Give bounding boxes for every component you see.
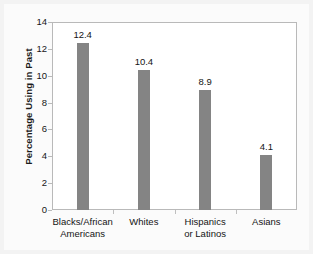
y-axis-tick-label: 12 xyxy=(25,44,47,54)
bar-value-label: 4.1 xyxy=(244,141,288,152)
bar-value-label: 10.4 xyxy=(122,56,166,67)
x-axis-category-label-line: Americans xyxy=(40,228,126,240)
y-axis-tick-mark xyxy=(48,49,52,50)
y-axis-tick-label: 8 xyxy=(25,98,47,108)
y-axis-tick-label: 2 xyxy=(25,178,47,188)
bar xyxy=(260,155,272,210)
y-axis-tick-mark xyxy=(48,156,52,157)
y-axis-tick-label: 6 xyxy=(25,124,47,134)
bar xyxy=(77,43,89,210)
bar xyxy=(138,70,150,210)
bar-value-label: 12.4 xyxy=(61,29,105,40)
bar-value-label: 8.9 xyxy=(183,76,227,87)
bar-chart-figure: Percentage Using in Past 02468101214 12.… xyxy=(0,0,313,254)
y-axis-tick-mark xyxy=(48,76,52,77)
x-axis-category-label-line: Asians xyxy=(223,216,309,228)
y-axis-tick-mark xyxy=(48,210,52,211)
y-axis-tick-label: 10 xyxy=(25,71,47,81)
y-axis-tick-mark xyxy=(48,129,52,130)
x-axis-category-label-line: or Latinos xyxy=(162,228,248,240)
y-axis-tick-mark xyxy=(48,103,52,104)
y-axis-tick-label: 4 xyxy=(25,151,47,161)
y-axis-tick-label: 0 xyxy=(25,205,47,215)
x-axis-tick-mark xyxy=(236,210,237,214)
x-axis-category-label: Asians xyxy=(223,216,309,228)
y-axis-tick-label: 14 xyxy=(25,17,47,27)
x-axis-tick-mark xyxy=(113,210,114,214)
y-axis-tick-mark xyxy=(48,22,52,23)
bar xyxy=(199,90,211,210)
y-axis-tick-mark xyxy=(48,183,52,184)
x-axis-tick-mark xyxy=(175,210,176,214)
